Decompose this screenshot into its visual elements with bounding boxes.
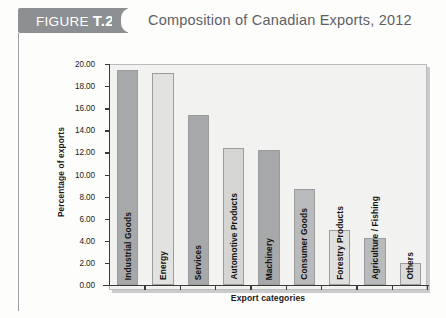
x-tick <box>286 285 287 290</box>
figure-panel: FIGURE T.2 Composition of Canadian Expor… <box>0 0 446 318</box>
bar-label: Energy <box>158 251 168 280</box>
figure-badge-notch <box>112 8 128 33</box>
figure-title: Composition of Canadian Exports, 2012 <box>148 8 412 33</box>
y-tick <box>105 152 110 153</box>
bar-label: Consumer Goods <box>299 208 309 280</box>
bar-label: Others <box>405 252 415 280</box>
bar-chart: Industrial GoodsEnergyServicesAutomotive… <box>60 55 432 300</box>
y-tick-label: 14.00 <box>75 126 95 135</box>
x-axis-title: Export categories <box>109 293 427 303</box>
y-tick <box>105 108 110 109</box>
x-tick <box>392 285 393 290</box>
bar: Forestry Products <box>329 230 350 285</box>
bar-label: Industrial Goods <box>123 212 133 280</box>
x-axis-line <box>103 285 429 286</box>
bar-label: Machinery <box>264 238 274 280</box>
x-tick <box>427 285 428 290</box>
bar: Machinery <box>258 150 279 285</box>
bar: Agriculture / Fishing <box>364 238 385 286</box>
y-tick <box>105 86 110 87</box>
y-tick-label: 0.00 <box>79 281 95 290</box>
bar-label: Services <box>193 245 203 280</box>
y-tick <box>105 197 110 198</box>
y-tick-label: 16.00 <box>75 104 95 113</box>
x-tick <box>180 285 181 290</box>
x-tick <box>144 285 145 290</box>
y-tick-label: 10.00 <box>75 170 95 179</box>
y-tick-label: 20.00 <box>75 60 95 69</box>
bar: Services <box>188 115 209 285</box>
y-tick-label: 12.00 <box>75 148 95 157</box>
bar: Energy <box>152 73 173 285</box>
y-axis-title: Percentage of exports <box>56 127 66 217</box>
y-tick <box>105 130 110 131</box>
x-tick <box>215 285 216 290</box>
y-tick <box>105 219 110 220</box>
bar: Others <box>400 263 421 285</box>
y-tick-label: 18.00 <box>75 82 95 91</box>
figure-badge-number: T.2 <box>93 12 114 29</box>
y-axis <box>103 64 110 285</box>
y-tick-label: 4.00 <box>79 236 95 245</box>
x-tick <box>356 285 357 290</box>
figure-header: FIGURE T.2 Composition of Canadian Expor… <box>0 8 446 36</box>
bar: Industrial Goods <box>117 70 138 285</box>
bar-label: Automotive Products <box>229 193 239 280</box>
bar-label: Forestry Products <box>335 206 345 280</box>
y-tick <box>105 175 110 176</box>
left-margin-rule <box>18 33 19 311</box>
bar: Automotive Products <box>223 148 244 285</box>
figure-badge-prefix: FIGURE <box>36 14 93 29</box>
bars-layer: Industrial GoodsEnergyServicesAutomotive… <box>110 65 426 289</box>
y-tick-label: 6.00 <box>79 214 95 223</box>
y-tick <box>105 64 110 65</box>
x-tick <box>321 285 322 290</box>
y-tick-label: 2.00 <box>79 258 95 267</box>
bar-label: Agriculture / Fishing <box>370 196 380 280</box>
plot-area: Industrial GoodsEnergyServicesAutomotive… <box>109 64 427 290</box>
y-tick <box>105 263 110 264</box>
y-tick <box>105 241 110 242</box>
bar: Consumer Goods <box>294 189 315 285</box>
y-tick-label: 8.00 <box>79 192 95 201</box>
x-tick <box>250 285 251 290</box>
